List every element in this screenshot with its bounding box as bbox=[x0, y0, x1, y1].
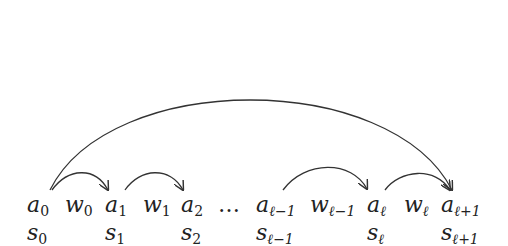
ellipsis: … bbox=[218, 192, 240, 217]
arrow-a1-a2 bbox=[125, 173, 183, 190]
arrow-a0-a1 bbox=[52, 173, 108, 190]
label-w1: w1 bbox=[143, 192, 171, 219]
long-arc-arrow bbox=[50, 100, 452, 190]
label-a-l-minus-1: aℓ−1 bbox=[256, 192, 296, 219]
label-a0: a0 bbox=[27, 192, 49, 219]
label-s0: s0 bbox=[27, 220, 47, 246]
label-w0: w0 bbox=[65, 192, 93, 219]
label-a-l: aℓ bbox=[367, 192, 386, 219]
label-s-l: sℓ bbox=[367, 220, 384, 246]
arrow-al-1-al bbox=[283, 167, 367, 190]
label-a1: a1 bbox=[105, 192, 127, 219]
label-s-l-plus-1: sℓ+1 bbox=[441, 220, 479, 246]
label-w-l-minus-1: wℓ−1 bbox=[310, 192, 355, 219]
label-a2: a2 bbox=[181, 192, 203, 219]
label-s2: s2 bbox=[181, 220, 201, 246]
arrow-al-al1 bbox=[385, 173, 450, 190]
label-w-l: wℓ bbox=[404, 192, 429, 219]
label-s1: s1 bbox=[105, 220, 125, 246]
sequence-diagram: a0 w0 a1 w1 a2 … aℓ−1 wℓ−1 aℓ wℓ aℓ+1 s0… bbox=[0, 0, 508, 246]
label-s-l-minus-1: sℓ−1 bbox=[256, 220, 294, 246]
label-a-l-plus-1: aℓ+1 bbox=[441, 192, 481, 219]
